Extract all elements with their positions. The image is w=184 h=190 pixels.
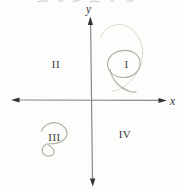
x-axis-label: x <box>169 95 176 107</box>
x-axis-left-arrowhead <box>11 98 20 103</box>
quadrant-4-label: IV <box>119 128 132 140</box>
coordinate-plane-figure: y x I II III IV <box>0 0 184 190</box>
faint-pencil-arc <box>101 24 143 91</box>
quadrant-1-circle-tail <box>110 70 136 93</box>
axes <box>11 17 167 187</box>
quadrant-3-label: III <box>48 131 61 143</box>
quadrant-diagram-svg: y x I II III IV <box>0 0 184 190</box>
quadrant-2-label: II <box>52 58 60 70</box>
quadrant-1-label: I <box>124 58 128 70</box>
y-axis-up-arrowhead <box>88 17 93 26</box>
x-axis-right-arrowhead <box>159 98 167 103</box>
scan-mark <box>90 1 99 2</box>
y-axis-line <box>91 23 93 180</box>
axis-labels: y x <box>85 3 176 107</box>
scan-mark <box>38 1 48 2</box>
scan-mark <box>73 1 79 2</box>
y-axis-label: y <box>85 3 92 16</box>
y-axis-down-arrowhead <box>90 179 95 187</box>
